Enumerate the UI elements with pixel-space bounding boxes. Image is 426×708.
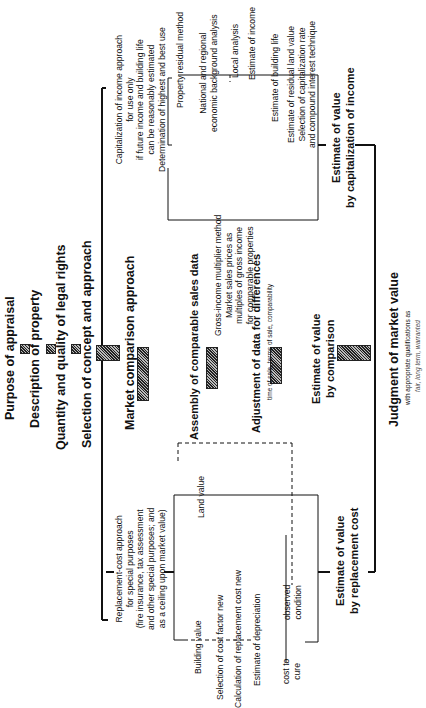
income-step-income: Estimate of income (247, 7, 258, 80)
connector-block (337, 345, 371, 361)
connector-block (206, 347, 218, 389)
building-value: Building value (193, 620, 204, 674)
market-title: Market comparison approach (123, 256, 139, 430)
step-purpose: Purpose of appraisal (3, 296, 19, 420)
income-estimate: Estimate of value by capitalization of i… (330, 67, 358, 208)
market-adjustment-note: time of sale, terms of sale, comparabili… (266, 284, 274, 400)
connector-block (137, 347, 149, 401)
step-description: Description of property (28, 290, 44, 428)
replacement-title: Replacement-cost approach for special pu… (114, 508, 168, 630)
income-gim: Gross-income multiplier method Market sa… (213, 215, 256, 336)
income-step-residual: Estimate of residual land value Selectio… (286, 21, 318, 148)
connector-block (96, 345, 120, 361)
income-step-local: Local analysis (230, 24, 241, 78)
land-value: Land value (196, 476, 207, 518)
step-selection: Selection of concept and approach (80, 240, 96, 448)
market-assembly: Assembly of comparable sales data (188, 254, 202, 440)
judgment-title: Judgment of market value (387, 272, 403, 427)
observed-condition: observed condition (282, 585, 303, 620)
cost-factor-step: Selection of cost factor new (215, 595, 226, 700)
income-step-national: National and regional economic backgroun… (198, 14, 219, 132)
depreciation-step: Estimate of depreciation (252, 594, 263, 686)
market-estimate: Estimate of value by comparison (310, 314, 338, 404)
judgment-note-2: fair, long term, warranted (414, 320, 422, 392)
step-legal-rights: Quantity and quality of legal rights (54, 244, 70, 450)
cost-to-cure: cost to cure (281, 659, 302, 684)
income-step-building-life: Estimate of building life (270, 34, 281, 122)
income-title: Capitalization of income approach for us… (114, 27, 168, 172)
judgment-note: with appropriate qualifications as (404, 311, 412, 405)
income-property-residual: Property residual method (175, 12, 186, 108)
replacement-cost-step: Calculation of replacement cost new (233, 570, 244, 708)
replacement-estimate: Estimate of value by replacement cost (334, 508, 362, 614)
